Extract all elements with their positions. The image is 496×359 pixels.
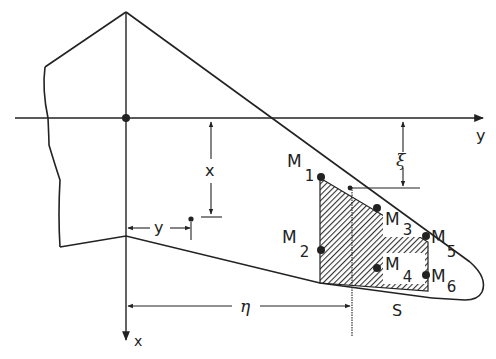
- mass-label-2: M2: [282, 227, 309, 261]
- mass-dot-2: [317, 246, 325, 254]
- wing-diagram: x y η ξ y x M1 M2 M3 M4 M5 M6 S: [0, 0, 496, 359]
- mass-dot-6: [422, 271, 430, 279]
- mass-label-5: M5: [431, 227, 456, 261]
- mass-label-6: M6: [431, 266, 456, 296]
- mass-dot-1: [317, 173, 325, 181]
- x-axis-label: x: [134, 333, 142, 349]
- mass-label-1: M1: [287, 151, 314, 185]
- xi-dimension: [350, 122, 420, 188]
- region-s-label: S: [392, 301, 402, 320]
- mass-dot-5: [422, 232, 430, 240]
- mass-dot-3: [373, 204, 381, 212]
- point-dot: [188, 216, 193, 221]
- y-axis-label: y: [476, 126, 485, 145]
- y-dimension-label: y: [154, 218, 163, 237]
- mass-dot-4: [373, 264, 381, 272]
- eta-label: η: [240, 296, 251, 316]
- x-dimension-label: x: [205, 161, 214, 180]
- origin-dot: [122, 114, 130, 122]
- xi-label: ξ: [396, 150, 407, 170]
- xi-point-dot: [348, 186, 353, 191]
